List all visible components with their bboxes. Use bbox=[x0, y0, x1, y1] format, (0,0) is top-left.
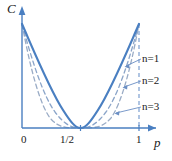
leader-line-n3 bbox=[116, 107, 141, 113]
y-axis-arrowhead bbox=[19, 6, 26, 15]
series-curve-n1 bbox=[22, 24, 139, 128]
x-tick-label-half: 1/2 bbox=[60, 134, 74, 145]
series-label-n1: n=1 bbox=[142, 53, 159, 64]
x-tick-label-one: 1 bbox=[136, 134, 142, 145]
series-label-n2: n=2 bbox=[142, 75, 159, 86]
series-curve-n2 bbox=[22, 24, 139, 128]
series-curve-n3 bbox=[22, 24, 139, 128]
x-axis-arrowhead bbox=[148, 125, 156, 132]
chart-figure: C p 0 1/2 1 n=1 n=2 n=3 bbox=[0, 0, 172, 161]
x-axis-label: p bbox=[154, 136, 161, 149]
y-axis-label: C bbox=[7, 2, 16, 15]
series-label-n3: n=3 bbox=[142, 101, 159, 112]
x-tick-label-0: 0 bbox=[21, 134, 27, 145]
